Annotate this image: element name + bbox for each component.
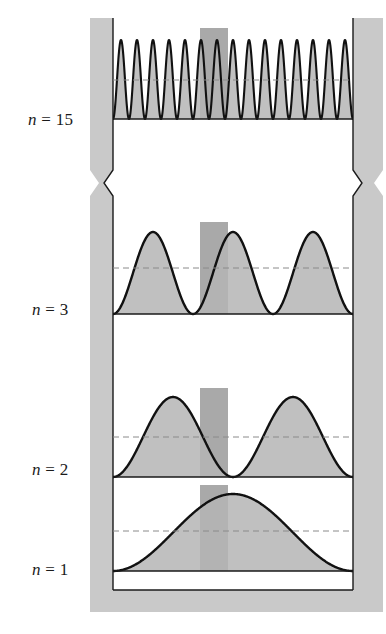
panel-n3 — [113, 232, 353, 314]
infinite-square-well-figure: n = 15 n = 3 n = 2 n = 1 — [0, 0, 386, 634]
label-n-symbol-1: n — [32, 560, 41, 579]
label-n-symbol-3: n — [32, 300, 41, 319]
label-n-symbol-15: n — [28, 110, 37, 129]
label-n-2: n = 2 — [32, 460, 69, 480]
label-eq-3: = — [41, 300, 60, 319]
right-wall-lower — [353, 200, 383, 612]
left-wall-lower — [90, 200, 113, 612]
label-eq-2: = — [41, 460, 60, 479]
label-value-15: 15 — [56, 110, 74, 129]
label-value-3: 3 — [60, 300, 69, 319]
label-value-1: 1 — [60, 560, 69, 579]
label-n-15: n = 15 — [28, 110, 73, 130]
panel-n2 — [113, 397, 353, 477]
label-eq-15: = — [37, 110, 56, 129]
probability-fill-n3 — [113, 232, 353, 314]
left-wall-upper — [90, 18, 113, 200]
label-n-1: n = 1 — [32, 560, 69, 580]
panel-n15 — [113, 40, 353, 119]
label-eq-1: = — [41, 560, 60, 579]
label-value-2: 2 — [60, 460, 69, 479]
well-bottom-slab — [90, 590, 383, 612]
panel-n1 — [113, 494, 353, 571]
label-n-3: n = 3 — [32, 300, 69, 320]
probability-fill-n1 — [113, 494, 353, 571]
right-wall-upper — [353, 18, 383, 200]
label-n-symbol-2: n — [32, 460, 41, 479]
